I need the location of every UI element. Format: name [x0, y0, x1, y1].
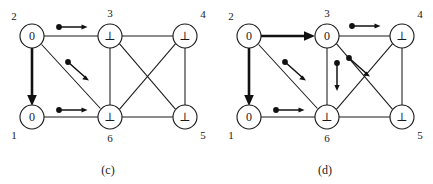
- node-6-id-label: 6: [107, 132, 113, 144]
- bold-edge-2-3: [261, 31, 315, 41]
- bold-edge-2-1: [244, 48, 254, 106]
- node-3-id-label: 3: [107, 7, 113, 19]
- panel-d-caption: (d): [217, 163, 433, 178]
- node-2[interactable]: 0 2: [11, 10, 44, 48]
- node-1-value: 0: [29, 110, 35, 124]
- node-1-id-label: 1: [11, 129, 17, 141]
- message-arrow-3-4: [349, 23, 380, 29]
- node-4-value: ⊥: [396, 29, 407, 43]
- message-arrow-head: [299, 107, 305, 112]
- panel-c-caption: (c): [0, 163, 216, 178]
- message-arrow-shaft: [349, 58, 367, 74]
- node-2[interactable]: 0 2: [228, 10, 261, 48]
- node-4-id-label: 4: [417, 8, 423, 20]
- panel-c: 0 2 ⊥ 3 ⊥ 4 0 1 ⊥ 6: [0, 0, 216, 184]
- node-1-id-label: 1: [228, 129, 234, 141]
- message-arrow-1-6: [56, 107, 87, 113]
- node-3-value: 0: [324, 29, 330, 43]
- message-arrow-head: [82, 24, 88, 29]
- panel-d: 0 2 0 3 ⊥ 4 0 1 ⊥ 6: [217, 0, 433, 184]
- edge-2-6: [42, 45, 101, 109]
- node-6[interactable]: ⊥ 6: [98, 105, 122, 144]
- bold-edge-2-1-arrowhead: [244, 95, 254, 106]
- node-5[interactable]: ⊥ 5: [390, 105, 423, 141]
- figure-container: 0 2 ⊥ 3 ⊥ 4 0 1 ⊥ 6: [0, 0, 433, 184]
- bold-edge-2-3-arrowhead: [304, 31, 315, 41]
- node-4[interactable]: ⊥ 4: [173, 8, 206, 48]
- node-4-value: ⊥: [179, 29, 190, 43]
- message-arrow-3-6: [334, 60, 340, 91]
- edges-d: [259, 36, 402, 117]
- edge-2-6: [259, 45, 318, 109]
- node-3-value: ⊥: [104, 29, 115, 43]
- node-4[interactable]: ⊥ 4: [390, 8, 423, 48]
- node-5-id-label: 5: [417, 129, 423, 141]
- node-5-id-label: 5: [200, 129, 206, 141]
- message-arrow-head: [82, 107, 88, 112]
- message-arrow-1-6: [273, 107, 304, 113]
- node-3-id-label: 3: [324, 7, 330, 19]
- node-5-value: ⊥: [179, 110, 190, 124]
- edges-c: [42, 36, 185, 117]
- node-4-id-label: 4: [200, 8, 206, 20]
- message-arrow-2-3: [56, 24, 87, 30]
- graph-diagram-c: 0 2 ⊥ 3 ⊥ 4 0 1 ⊥ 6: [0, 0, 216, 150]
- node-1[interactable]: 0 1: [228, 105, 261, 141]
- node-2-value: 0: [246, 29, 252, 43]
- node-2-id-label: 2: [11, 10, 17, 22]
- message-arrow-2-6: [65, 59, 89, 81]
- node-3[interactable]: ⊥ 3: [98, 7, 122, 48]
- node-6[interactable]: ⊥ 6: [315, 105, 339, 144]
- message-arrow-2-6: [282, 59, 306, 81]
- graph-diagram-d: 0 2 0 3 ⊥ 4 0 1 ⊥ 6: [217, 0, 433, 150]
- node-1-value: 0: [246, 110, 252, 124]
- node-2-id-label: 2: [228, 10, 234, 22]
- bold-edge-2-1: [27, 48, 37, 106]
- node-6-value: ⊥: [321, 110, 332, 124]
- message-arrow-3-5: [346, 55, 370, 77]
- message-arrow-head: [375, 23, 381, 28]
- node-1[interactable]: 0 1: [11, 105, 44, 141]
- node-3[interactable]: 0 3: [315, 7, 339, 48]
- node-5-value: ⊥: [396, 110, 407, 124]
- node-5[interactable]: ⊥ 5: [173, 105, 206, 141]
- node-6-value: ⊥: [104, 110, 115, 124]
- node-6-id-label: 6: [324, 132, 330, 144]
- message-arrow-head: [334, 85, 339, 91]
- bold-edge-2-1-arrowhead: [27, 95, 37, 106]
- node-2-value: 0: [29, 29, 35, 43]
